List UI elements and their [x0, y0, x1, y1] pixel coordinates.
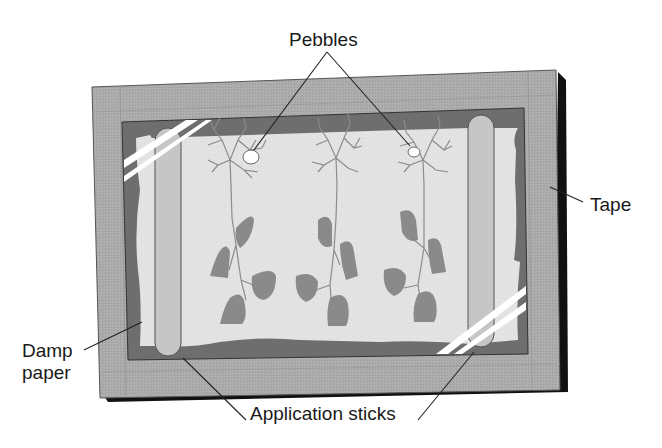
pebble-3 [408, 147, 420, 157]
label-tape: Tape [590, 194, 631, 216]
pebble-1 [243, 150, 259, 164]
label-application-sticks: Application sticks [250, 403, 396, 425]
label-damp-paper: Damp paper [22, 340, 73, 384]
label-damp-paper-line1: Damp [22, 340, 73, 362]
application-stick-left [155, 128, 181, 356]
leaf [318, 217, 332, 247]
label-damp-paper-line2: paper [22, 362, 73, 384]
diagram-canvas [0, 0, 662, 448]
label-pebbles: Pebbles [289, 29, 358, 51]
leaf [327, 295, 348, 326]
application-stick-right [468, 115, 494, 347]
